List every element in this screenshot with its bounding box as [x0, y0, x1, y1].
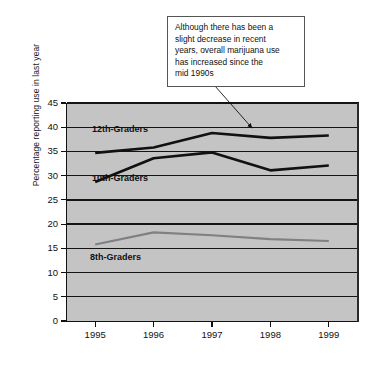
- y-axis-tick-5: 5: [18, 291, 58, 302]
- x-axis-tick-1999: 1999: [306, 329, 352, 340]
- x-axis-tick-mark: [270, 322, 271, 327]
- x-axis-tick-1995: 1995: [72, 329, 118, 340]
- callout-line-1: Although there has been a: [175, 22, 298, 34]
- chart-figure: Percentage reporting use in last year 05…: [0, 0, 378, 366]
- x-axis-tick-mark: [211, 322, 212, 327]
- x-axis-tick-mark: [328, 322, 329, 327]
- callout-line-4: has increased since the: [175, 57, 298, 69]
- x-axis-tick-1998: 1998: [247, 329, 293, 340]
- series-line-8th-graders: [95, 232, 329, 244]
- callout-line-3: years, overall marijuana use: [175, 45, 298, 57]
- series-label-8th-graders: 8th-Graders: [90, 252, 141, 262]
- y-axis-tick-40: 40: [18, 121, 58, 132]
- x-axis-tick-mark: [153, 322, 154, 327]
- y-axis-tick-45: 45: [18, 97, 58, 108]
- series-lines: [66, 103, 358, 321]
- x-axis-tick-1997: 1997: [189, 329, 235, 340]
- y-axis-tick-35: 35: [18, 145, 58, 156]
- x-axis-tick-mark: [95, 322, 96, 327]
- series-label-10th-graders: 10th-Graders: [92, 173, 148, 183]
- series-label-12th-graders: 12th-Graders: [92, 124, 148, 134]
- series-line-12th-graders: [95, 133, 329, 153]
- y-axis-tick-25: 25: [18, 194, 58, 205]
- y-axis-tick-15: 15: [18, 242, 58, 253]
- callout-line-2: slight decrease in recent: [175, 34, 298, 46]
- x-axis-tick-1996: 1996: [131, 329, 177, 340]
- y-axis-title: Percentage reporting use in last year: [31, 5, 41, 225]
- y-axis-tick-0: 0: [18, 315, 58, 326]
- y-axis-tick-30: 30: [18, 170, 58, 181]
- y-axis-tick-20: 20: [18, 218, 58, 229]
- callout-line-5: mid 1990s: [175, 68, 298, 80]
- annotation-callout: Although there has been a slight decreas…: [167, 16, 305, 87]
- y-axis-tick-10: 10: [18, 267, 58, 278]
